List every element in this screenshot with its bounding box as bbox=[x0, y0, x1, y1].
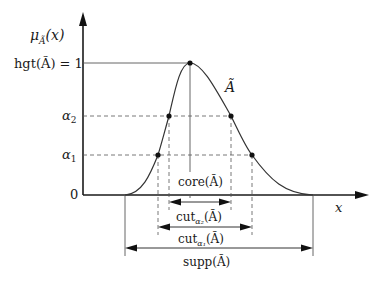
arrow-left-icon bbox=[158, 224, 170, 231]
cut-alpha2-label: cutα₂(Ã) bbox=[176, 209, 222, 226]
supp-label: supp(Ã) bbox=[183, 254, 230, 269]
cut-alpha2-interval bbox=[158, 224, 252, 231]
arrow-right-icon bbox=[240, 224, 252, 231]
y-axis-label: μÃ(x) bbox=[30, 27, 64, 46]
axes bbox=[79, 12, 369, 199]
peak-point bbox=[187, 60, 192, 65]
curve-label: Ã bbox=[223, 78, 235, 95]
arrow-right-icon bbox=[301, 245, 313, 252]
fuzzy-set-diagram: μÃ(x) x hgt(Ã) = 1 α2 α1 0 Ã core(Ã) cut… bbox=[0, 0, 382, 283]
y-axis-arrow-icon bbox=[79, 12, 87, 26]
core-interval bbox=[169, 199, 231, 206]
alpha1-label: α1 bbox=[62, 147, 77, 164]
core-label: core(Ã) bbox=[178, 174, 223, 189]
alpha2-label: α2 bbox=[62, 108, 77, 125]
arrow-left-icon bbox=[169, 199, 181, 206]
hgt-label: hgt(Ã) = 1 bbox=[14, 56, 83, 71]
cut-alpha1-label: cutα₁(Ã) bbox=[178, 231, 224, 248]
arrow-left-icon bbox=[125, 245, 137, 252]
arrow-right-icon bbox=[219, 199, 231, 206]
x-axis-label: x bbox=[335, 200, 343, 215]
alpha2-right-point bbox=[228, 113, 233, 118]
alpha1-right-point bbox=[249, 152, 254, 157]
alpha2-left-point bbox=[166, 113, 171, 118]
x-axis-arrow-icon bbox=[355, 191, 369, 199]
alpha1-left-point bbox=[155, 152, 160, 157]
zero-label: 0 bbox=[70, 187, 78, 202]
